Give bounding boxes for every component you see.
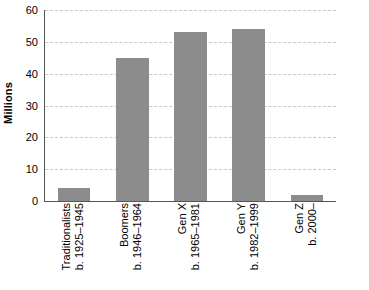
bar[interactable]	[291, 195, 324, 201]
bar[interactable]	[116, 58, 149, 201]
x-axis-label: Gen Yb. 1982–1999	[219, 203, 277, 290]
bar[interactable]	[174, 32, 207, 201]
y-axis-tick-labels: 6050403020100	[16, 0, 42, 211]
plot-area	[44, 10, 336, 202]
bar-slot	[278, 10, 336, 201]
x-axis-label-years: b. 1982–1999	[248, 203, 261, 270]
x-axis-label-name: Gen Y	[235, 203, 248, 234]
x-axis-label-years: b. 1946–1964	[131, 203, 144, 270]
y-axis-tick-label: 20	[26, 131, 38, 143]
x-axis-label-name: Gen X	[176, 203, 189, 234]
y-axis-tick-label: 60	[26, 4, 38, 16]
bar[interactable]	[232, 29, 265, 201]
x-axis-label-years: b. 2000–	[306, 203, 319, 246]
x-axis-label-years: b. 1965–1981	[189, 203, 202, 270]
x-axis-label: Boomersb. 1946–1964	[102, 203, 160, 290]
y-axis-tick-label: 40	[26, 68, 38, 80]
bars-layer	[45, 10, 336, 201]
bar[interactable]	[58, 188, 91, 201]
bar-slot	[161, 10, 219, 201]
bar-slot	[45, 10, 103, 201]
y-axis-title: Millions	[0, 0, 16, 205]
x-axis-label-name: Gen Z	[293, 203, 306, 234]
y-axis-tick-label: 30	[26, 100, 38, 112]
bar-chart: Millions 6050403020100 Traditionalistsb.…	[0, 0, 369, 290]
y-axis-tick-label: 10	[26, 163, 38, 175]
y-axis-tick-label: 50	[26, 36, 38, 48]
x-axis-label-name: Boomers	[118, 203, 131, 247]
x-axis-label: Gen Xb. 1965–1981	[160, 203, 218, 290]
y-axis-tick-label: 0	[32, 195, 38, 207]
x-axis-label-years: b. 1925–1945	[73, 203, 86, 270]
x-axis-label: Gen Zb. 2000–	[277, 203, 335, 290]
y-axis-title-text: Millions	[2, 82, 14, 124]
x-axis-label: Traditionalistsb. 1925–1945	[44, 203, 102, 290]
x-axis-tick-labels: Traditionalistsb. 1925–1945Boomersb. 194…	[44, 203, 335, 290]
bar-slot	[103, 10, 161, 201]
bar-slot	[220, 10, 278, 201]
x-axis-label-name: Traditionalists	[60, 203, 73, 270]
